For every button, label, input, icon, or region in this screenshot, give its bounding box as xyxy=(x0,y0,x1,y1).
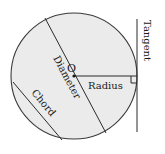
radius-label: Radius xyxy=(88,80,123,91)
tangent-label: Tangent xyxy=(142,20,153,61)
circle-diagram: O Radius Diameter Chord Tangent xyxy=(0,0,165,154)
